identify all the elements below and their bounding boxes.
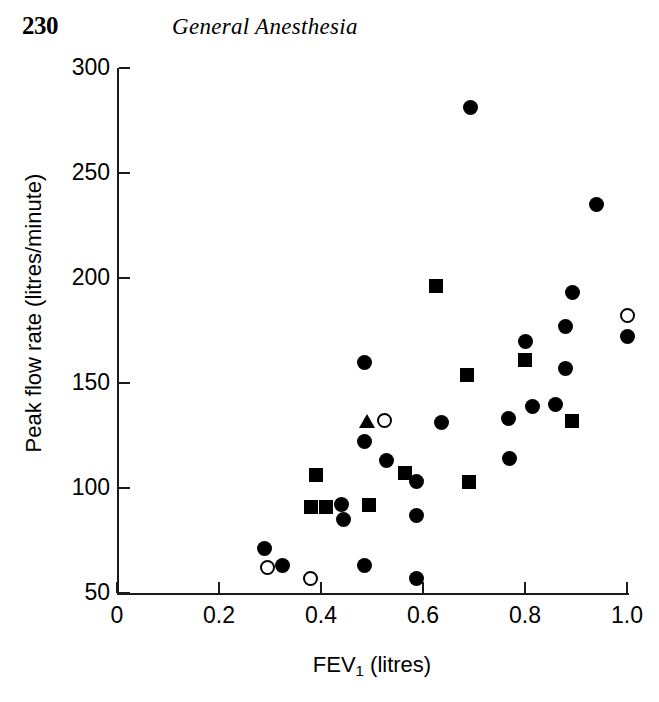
y-tick-label-300: 300 (50, 56, 110, 79)
plot-data-area (117, 68, 627, 593)
data-point-filled-circle (565, 285, 580, 300)
data-point-filled-square (398, 466, 412, 480)
x-axis-title-subscript: 1 (356, 662, 364, 679)
data-point-filled-square (309, 468, 323, 482)
y-tick-label-150: 150 (50, 371, 110, 394)
data-point-filled-circle (275, 558, 290, 573)
data-point-filled-square (565, 414, 579, 428)
y-tick-label-50: 50 (50, 581, 110, 604)
page-number: 230 (22, 12, 58, 40)
data-point-open-circle (303, 571, 318, 586)
x-tick-label-0.6: 0.6 (383, 604, 463, 627)
data-point-filled-circle (434, 415, 449, 430)
data-point-filled-circle (558, 319, 573, 334)
x-tick-label-0: 0 (77, 604, 157, 627)
data-point-filled-circle (357, 558, 372, 573)
data-point-open-circle (620, 308, 635, 323)
data-point-filled-circle (548, 397, 563, 412)
data-point-filled-circle (257, 541, 272, 556)
data-point-filled-triangle (359, 414, 375, 428)
scatter-plot-figure: 50100150200250300 00.20.40.60.81.0 Peak … (0, 52, 659, 702)
data-point-filled-circle (463, 100, 478, 115)
x-tick-label-0.8: 0.8 (485, 604, 565, 627)
data-point-open-circle (260, 560, 275, 575)
data-point-filled-square (462, 475, 476, 489)
data-point-filled-circle (334, 497, 349, 512)
data-point-filled-circle (525, 399, 540, 414)
data-point-filled-square (304, 500, 318, 514)
data-point-filled-circle (357, 434, 372, 449)
y-tick-label-100: 100 (50, 476, 110, 499)
data-point-filled-circle (589, 197, 604, 212)
data-point-open-circle (377, 413, 392, 428)
running-head: General Anesthesia (172, 14, 358, 40)
x-axis-title-unit: (litres) (364, 652, 431, 677)
data-point-filled-circle (558, 361, 573, 376)
data-point-filled-circle (501, 411, 516, 426)
data-point-filled-square (362, 498, 376, 512)
data-point-filled-circle (502, 451, 517, 466)
x-axis-title-main: FEV (313, 652, 356, 677)
data-point-filled-circle (409, 571, 424, 586)
x-tick-label-1.0: 1.0 (587, 604, 659, 627)
x-tick-label-0.2: 0.2 (179, 604, 259, 627)
data-point-filled-square (319, 500, 333, 514)
x-tick-label-0.4: 0.4 (281, 604, 361, 627)
data-point-filled-circle (357, 355, 372, 370)
data-point-filled-circle (336, 512, 351, 527)
y-tick-label-200: 200 (50, 266, 110, 289)
page-header: 230 General Anesthesia (0, 0, 659, 52)
data-point-filled-circle (518, 334, 533, 349)
data-point-filled-square (429, 279, 443, 293)
data-point-filled-circle (620, 329, 635, 344)
x-axis-line (117, 593, 629, 595)
data-point-filled-square (460, 368, 474, 382)
data-point-filled-circle (409, 508, 424, 523)
data-point-filled-square (518, 353, 532, 367)
y-tick-label-250: 250 (50, 161, 110, 184)
y-axis-title: Peak flow rate (litres/minute) (21, 83, 47, 543)
x-axis-title: FEV1 (litres) (117, 652, 627, 678)
data-point-filled-circle (379, 453, 394, 468)
